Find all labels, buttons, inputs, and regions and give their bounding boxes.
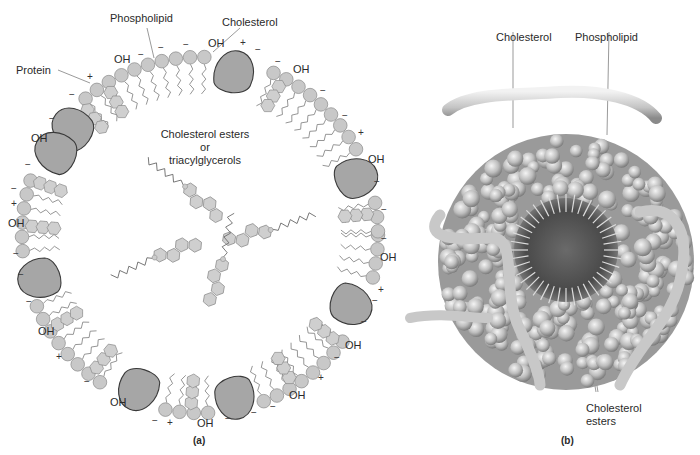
plus-sign: + (240, 38, 246, 48)
minus-sign: − (270, 402, 276, 412)
plus-sign: + (87, 72, 93, 82)
label-b-phospholipid: Phospholipid (575, 31, 638, 44)
oh-label: OH (208, 38, 225, 49)
label-cholesterol: Cholesterol (222, 16, 278, 29)
minus-sign: − (11, 184, 17, 194)
minus-sign: − (13, 249, 19, 259)
plus-sign: + (167, 418, 173, 428)
minus-sign: − (374, 177, 380, 187)
minus-sign: − (138, 50, 144, 60)
label-protein: Protein (16, 64, 51, 77)
oh-label: OH (345, 340, 362, 351)
minus-sign: − (361, 317, 367, 327)
esters-label-line1: Cholesterol (586, 402, 642, 415)
core-label-line1: Cholesterol esters (155, 128, 255, 141)
minus-sign: − (342, 111, 348, 121)
plus-sign: + (56, 352, 62, 362)
minus-sign: − (381, 234, 387, 244)
minus-sign: − (18, 270, 24, 280)
esters-label-line2: esters (586, 415, 642, 428)
oh-label: OH (8, 218, 25, 229)
oh-label: OH (368, 154, 385, 165)
minus-sign: − (49, 114, 55, 124)
panel-a-drawing (0, 0, 700, 455)
oh-label: OH (197, 418, 214, 429)
label-core-contents: Cholesterol esters or triacylglycerols (155, 128, 255, 167)
caption-b: (b) (561, 434, 574, 447)
plus-sign: + (11, 199, 17, 209)
oh-label: OH (110, 397, 127, 408)
panel-b-drawing (410, 92, 694, 390)
core-molecules (109, 155, 316, 309)
oh-label: OH (293, 64, 310, 75)
core-label-line2: or (155, 141, 255, 154)
minus-sign: − (225, 414, 231, 424)
minus-sign: − (251, 408, 257, 418)
label-b-cholesterol: Cholesterol (496, 31, 552, 44)
phospholipid-headgroups (15, 50, 385, 419)
minus-sign: − (152, 416, 158, 426)
minus-sign: − (275, 57, 281, 67)
core-label-line3: triacylglycerols (155, 154, 255, 167)
minus-sign: − (158, 43, 164, 53)
minus-sign: − (334, 353, 340, 363)
label-b-cholesterol-esters: Cholesterol esters (586, 402, 642, 428)
minus-sign: − (84, 377, 90, 387)
oh-label: OH (114, 54, 131, 65)
oh-label: OH (380, 252, 397, 263)
plus-sign: + (378, 285, 384, 295)
minus-sign: − (320, 86, 326, 96)
caption-a: (a) (193, 434, 205, 447)
minus-sign: − (26, 297, 32, 307)
plus-sign: + (318, 373, 324, 383)
minus-sign: − (183, 40, 189, 50)
oh-label: OH (38, 326, 55, 337)
plus-sign: + (358, 128, 364, 138)
minus-sign: − (25, 160, 31, 170)
label-phospholipid: Phospholipid (110, 12, 173, 25)
minus-sign: − (372, 296, 378, 306)
oh-label: OH (31, 133, 48, 144)
oh-label: OH (289, 390, 306, 401)
minus-sign: − (255, 45, 261, 55)
minus-sign: − (381, 205, 387, 215)
minus-sign: − (69, 90, 75, 100)
